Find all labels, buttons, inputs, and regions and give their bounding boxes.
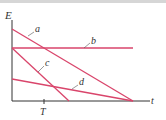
tick-label-T: T	[40, 106, 47, 117]
line-c	[12, 48, 69, 101]
label-b: b	[91, 35, 96, 46]
label-c: c	[45, 57, 50, 68]
leader-c	[38, 66, 44, 72]
leader-d	[72, 85, 78, 89]
x-axis-label: t	[151, 95, 154, 106]
y-axis-label: E	[4, 9, 12, 21]
leader-a	[28, 32, 34, 36]
label-d: d	[79, 76, 85, 87]
leader-b	[84, 43, 90, 48]
energy-time-diagram: E t T a b c d	[0, 0, 166, 120]
label-a: a	[35, 23, 40, 34]
